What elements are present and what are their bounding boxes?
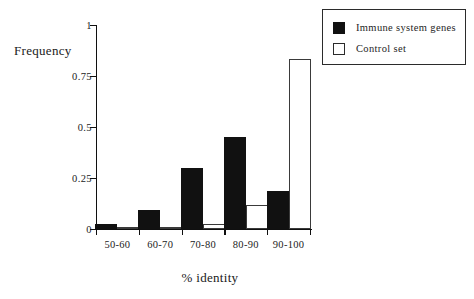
bar-70-80-control-set	[203, 224, 225, 229]
plot-area: 00.250.50.75150-6060-7070-8080-9090-100	[96, 25, 310, 229]
y-axis-title: Frequency	[14, 43, 72, 59]
legend-swatch-hollow-icon	[333, 43, 345, 55]
legend-label-immune-system-genes: Immune system genes	[356, 22, 456, 33]
bar-90-100-control-set	[289, 59, 311, 229]
legend-item-control-set: Control set	[333, 38, 465, 59]
bar-chart-figure: Frequency 00.250.50.75150-6060-7070-8080…	[0, 0, 474, 299]
bar-90-100-immune-system-genes	[267, 191, 289, 229]
chart-legend: Immune system genes Control set	[322, 9, 466, 65]
x-axis-tick-label: 60-70	[147, 239, 173, 250]
y-axis-tick-label: 0	[86, 224, 92, 235]
bar-80-90-control-set	[246, 205, 268, 229]
x-axis-tick-label: 90-100	[273, 239, 305, 250]
x-axis-tick-mark	[224, 229, 225, 235]
x-axis-tick-label: 70-80	[190, 239, 216, 250]
bar-50-60-immune-system-genes	[95, 224, 117, 229]
y-axis-tick-label: 0.5	[78, 122, 92, 133]
legend-swatch-filled-icon	[333, 22, 345, 34]
x-axis-tick-mark	[96, 229, 97, 235]
bar-80-90-immune-system-genes	[224, 137, 246, 229]
x-axis-title: % identity	[0, 270, 420, 286]
x-axis-tick-label: 80-90	[233, 239, 259, 250]
x-axis-tick-mark	[267, 229, 268, 235]
x-axis-line	[96, 229, 312, 230]
x-axis-tick-mark	[139, 229, 140, 235]
bar-70-80-immune-system-genes	[181, 168, 203, 229]
y-axis-tick-label: 0.75	[72, 71, 92, 82]
legend-label-control-set: Control set	[356, 43, 406, 54]
y-axis-tick-label: 1	[86, 20, 92, 31]
bar-60-70-control-set	[160, 227, 182, 229]
legend-item-immune-system-genes: Immune system genes	[333, 17, 465, 38]
x-axis-tick-mark	[182, 229, 183, 235]
y-axis-tick-label: 0.25	[72, 173, 92, 184]
x-axis-tick-mark	[310, 229, 311, 235]
bar-60-70-immune-system-genes	[138, 210, 160, 229]
bar-50-60-control-set	[117, 227, 139, 229]
x-axis-tick-label: 50-60	[104, 239, 130, 250]
